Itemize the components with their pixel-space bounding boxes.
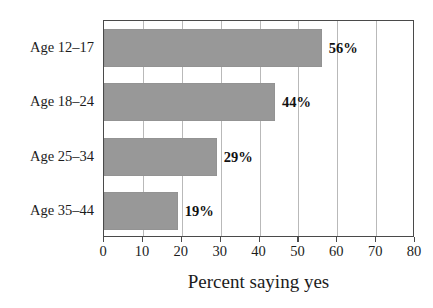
bar-value-label-1: 44% xyxy=(282,95,311,110)
bar-2 xyxy=(104,138,217,176)
bar-value-label-3: 19% xyxy=(185,204,214,219)
bars-layer: 56%44%29%19% xyxy=(104,21,413,236)
x-tick-mark-40 xyxy=(259,237,260,242)
x-tick-label-40: 40 xyxy=(251,243,266,260)
x-tick-mark-60 xyxy=(336,237,337,242)
x-tick-label-10: 10 xyxy=(135,243,150,260)
x-axis-title: Percent saying yes xyxy=(103,272,414,291)
x-axis-tick-labels: 01020304050607080 xyxy=(103,243,414,263)
category-label-1: Age 18–24 xyxy=(0,94,94,109)
x-tick-label-60: 60 xyxy=(329,243,344,260)
x-tick-label-50: 50 xyxy=(290,243,305,260)
bar-chart-figure: Age 12–17Age 18–24Age 25–34Age 35–44 56%… xyxy=(0,0,433,308)
x-tick-mark-30 xyxy=(220,237,221,242)
category-axis: Age 12–17Age 18–24Age 25–34Age 35–44 xyxy=(0,20,100,237)
bar-value-label-2: 29% xyxy=(224,149,253,164)
bar-0 xyxy=(104,29,322,67)
x-tick-mark-70 xyxy=(375,237,376,242)
bar-value-label-0: 56% xyxy=(329,41,358,56)
x-tick-mark-10 xyxy=(142,237,143,242)
x-tick-label-70: 70 xyxy=(368,243,383,260)
category-label-3: Age 35–44 xyxy=(0,203,94,218)
x-tick-mark-50 xyxy=(297,237,298,242)
bar-1 xyxy=(104,83,275,121)
category-label-2: Age 25–34 xyxy=(0,148,94,163)
x-tick-label-30: 30 xyxy=(212,243,227,260)
x-tick-label-0: 0 xyxy=(99,243,106,260)
category-label-0: Age 12–17 xyxy=(0,40,94,55)
x-tick-label-80: 80 xyxy=(407,243,422,260)
x-tick-label-20: 20 xyxy=(174,243,189,260)
x-tick-mark-80 xyxy=(414,237,415,242)
x-tick-mark-20 xyxy=(181,237,182,242)
x-tick-mark-0 xyxy=(103,237,104,242)
plot-area: 56%44%29%19% xyxy=(103,20,414,237)
bar-3 xyxy=(104,192,178,230)
